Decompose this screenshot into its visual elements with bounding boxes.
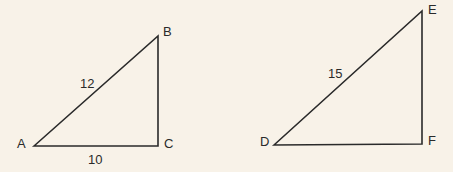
side-label-ab: 12: [80, 76, 94, 91]
side-label-de: 15: [328, 66, 342, 81]
triangle-def-shape: [274, 11, 422, 145]
triangle-abc-shape: [34, 36, 158, 146]
vertex-label-f: F: [428, 133, 436, 148]
vertex-label-a: A: [17, 136, 26, 151]
vertex-label-c: C: [164, 136, 173, 151]
vertex-label-e: E: [428, 2, 437, 17]
side-label-ac: 10: [88, 152, 102, 167]
triangle-def: D E F 15: [260, 2, 437, 149]
vertex-label-d: D: [260, 134, 269, 149]
triangles-diagram: A B C 12 10 D E F 15: [0, 0, 453, 172]
vertex-label-b: B: [163, 24, 172, 39]
triangle-abc: A B C 12 10: [17, 24, 173, 167]
